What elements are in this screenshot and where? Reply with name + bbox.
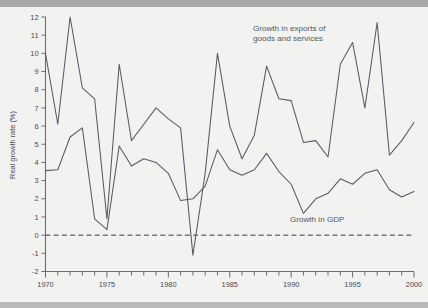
chart-figure: -2-10123456789101112 1970197519801985199… — [0, 0, 428, 308]
y-tick-label: 7 — [34, 104, 38, 113]
y-axis-title: Real growth rate (%) — [8, 111, 17, 179]
y-tick-label: -1 — [32, 249, 39, 258]
y-tick-label: 12 — [30, 13, 38, 22]
y-tick-label: 11 — [31, 31, 39, 40]
x-tick-label: 1970 — [37, 280, 53, 289]
line-chart-svg: -2-10123456789101112 1970197519801985199… — [0, 0, 428, 308]
x-tick-label: 1975 — [99, 280, 115, 289]
y-tick-label: 2 — [34, 194, 38, 203]
y-tick-label: 3 — [34, 176, 38, 185]
y-tick-label: 4 — [34, 158, 38, 167]
x-axis-tick-labels: 1970197519801985199019952000 — [37, 280, 422, 289]
y-axis: -2-10123456789101112 — [30, 13, 45, 277]
y-tick-label: 6 — [34, 122, 38, 131]
x-axis-ticks — [46, 272, 415, 278]
y-axis-ticks — [42, 17, 46, 272]
series-line-exports — [46, 17, 415, 255]
exports-annotation-line1: Growth in exports of — [253, 24, 326, 33]
y-tick-label: 5 — [34, 140, 38, 149]
x-tick-label: 1990 — [283, 280, 299, 289]
y-tick-label: -2 — [32, 267, 39, 276]
x-tick-label: 2000 — [406, 280, 422, 289]
gdp-annotation: Growth in GDP — [290, 215, 344, 224]
y-tick-label: 1 — [34, 213, 38, 222]
x-tick-label: 1985 — [222, 280, 238, 289]
x-axis: 1970197519801985199019952000 — [37, 272, 422, 290]
y-tick-label: 8 — [34, 85, 38, 94]
y-tick-label: 0 — [34, 231, 38, 240]
y-tick-label: 10 — [30, 49, 38, 58]
exports-annotation-line2: goods and services — [253, 34, 323, 43]
y-axis-tick-labels: -2-10123456789101112 — [30, 13, 38, 277]
x-tick-label: 1980 — [160, 280, 176, 289]
y-tick-label: 9 — [34, 67, 38, 76]
series-line-gdp — [46, 128, 415, 230]
x-tick-label: 1995 — [344, 280, 360, 289]
